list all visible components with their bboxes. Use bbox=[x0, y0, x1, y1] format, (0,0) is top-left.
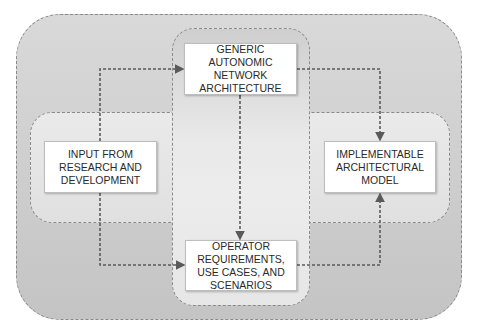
node-implementable-model: IMPLEMENTABLE ARCHITECTURAL MODEL bbox=[324, 141, 436, 193]
node-input-research: INPUT FROM RESEARCH AND DEVELOPMENT bbox=[44, 141, 157, 193]
autonomic-architecture-diagram: GENERIC AUTONOMIC NETWORK ARCHITECTURE O… bbox=[0, 0, 478, 334]
node-operator-requirements: OPERATOR REQUIREMENTS, USE CASES, AND SC… bbox=[185, 240, 297, 291]
arrow-input-to-operator bbox=[100, 193, 184, 265]
arrow-generic-to-implementable bbox=[297, 69, 380, 140]
node-generic-architecture: GENERIC AUTONOMIC NETWORK ARCHITECTURE bbox=[184, 43, 297, 95]
arrow-operator-to-implementable bbox=[297, 194, 380, 265]
arrow-input-to-generic bbox=[100, 69, 183, 141]
